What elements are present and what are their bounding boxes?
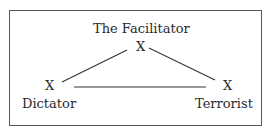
terrorist-marker: X (223, 79, 232, 93)
edge-facilitator-terrorist (149, 48, 215, 80)
facilitator-label: The Facilitator (93, 22, 190, 36)
edge-facilitator-dictator (62, 50, 127, 82)
dictator-marker: X (45, 79, 54, 93)
dictator-label: Dictator (22, 97, 76, 111)
facilitator-marker: X (136, 40, 145, 54)
terrorist-label: Terrorist (195, 97, 253, 111)
